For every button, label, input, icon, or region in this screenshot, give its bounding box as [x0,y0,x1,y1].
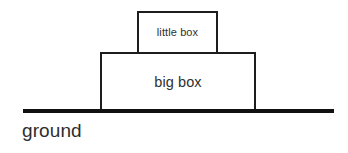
little-box-shape: little box [137,11,218,54]
ground-label: ground [22,119,82,143]
diagram-canvas: little box big box ground [0,0,348,153]
little-box-label: little box [139,26,216,39]
big-box-label: big box [102,74,254,91]
ground-line [23,109,334,113]
big-box-shape: big box [100,52,256,112]
